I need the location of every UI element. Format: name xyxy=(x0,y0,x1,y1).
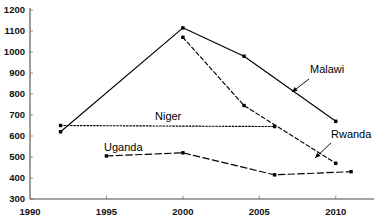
y-tick-label: 700 xyxy=(9,109,25,120)
data-point-malawi-1992 xyxy=(59,130,62,133)
y-tick-label: 800 xyxy=(9,88,25,99)
data-point-rwanda-2000 xyxy=(181,36,184,39)
y-axis-tick-labels: 300400500600700800900100011001200 xyxy=(4,4,25,204)
y-tick-label: 1000 xyxy=(4,46,25,57)
x-tick-label: 2005 xyxy=(249,206,271,217)
series-line-niger xyxy=(61,126,275,127)
series-label-malawi: Malawi xyxy=(310,63,344,75)
y-tick-label: 300 xyxy=(9,193,25,204)
data-point-uganda-2006 xyxy=(273,173,276,176)
series-markers xyxy=(59,26,353,176)
y-tick-label: 500 xyxy=(9,151,25,162)
series-label-uganda: Uganda xyxy=(104,141,143,153)
data-point-malawi-2004 xyxy=(242,55,245,58)
data-point-rwanda-2004 xyxy=(242,104,245,107)
series-line-uganda xyxy=(106,153,351,175)
x-tick-label: 1990 xyxy=(19,206,40,217)
series-line-rwanda xyxy=(183,37,336,163)
y-tick-label: 900 xyxy=(9,67,25,78)
data-point-niger-1992 xyxy=(59,124,62,127)
data-point-uganda-1995 xyxy=(105,154,108,157)
line-chart: 300400500600700800900100011001200 199019… xyxy=(0,0,378,224)
y-tick-label: 1100 xyxy=(4,25,25,36)
series-annotations: MalawiRwandaNigerUganda xyxy=(104,63,372,158)
x-tick-label: 2000 xyxy=(172,206,193,217)
data-point-malawi-2000 xyxy=(181,26,184,29)
y-tick-label: 1200 xyxy=(4,4,25,15)
data-point-rwanda-2010 xyxy=(334,162,337,165)
x-tick-label: 1995 xyxy=(96,206,118,217)
data-point-uganda-2011 xyxy=(349,170,352,173)
series-line-malawi xyxy=(61,28,336,132)
series-label-rwanda: Rwanda xyxy=(331,128,372,140)
data-point-niger-2006 xyxy=(273,125,276,128)
x-axis-tick-labels: 19901995200020052010 xyxy=(19,206,346,217)
x-tick-label: 2010 xyxy=(325,206,346,217)
data-point-uganda-2000 xyxy=(181,151,184,154)
y-tick-label: 400 xyxy=(9,172,25,183)
data-point-malawi-2010 xyxy=(334,120,337,123)
annotation-arrowhead-malawi xyxy=(292,87,298,92)
y-tick-label: 600 xyxy=(9,130,25,141)
series-label-niger: Niger xyxy=(155,110,182,122)
chart-canvas: 300400500600700800900100011001200 199019… xyxy=(0,0,378,224)
